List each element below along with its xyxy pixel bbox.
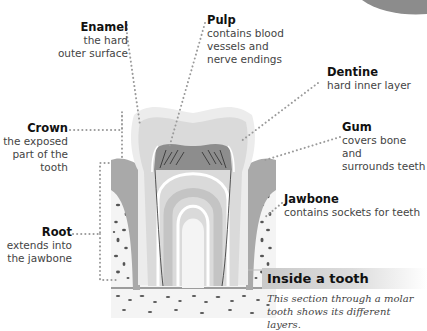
label-enamel-title: Enamel — [40, 20, 128, 34]
label-pulp: Pulp contains blood vessels and nerve en… — [207, 13, 317, 66]
label-enamel: Enamel the hard outer surface — [40, 20, 128, 60]
pulp-chamber — [154, 144, 232, 170]
label-jawbone-title: Jawbone — [284, 192, 427, 206]
label-gum-title: Gum — [342, 120, 427, 134]
gum-leader — [262, 137, 340, 161]
label-jawbone: Jawbone contains sockets for teeth — [284, 192, 427, 219]
label-crown-line-1: the exposed — [0, 135, 68, 148]
label-dentine-line-1: hard inner layer — [327, 79, 427, 92]
label-crown: Crown the exposed part of the tooth — [0, 121, 68, 174]
caption-title: Inside a tooth — [262, 268, 427, 289]
label-crown-line-3: tooth — [0, 161, 68, 174]
label-pulp-line-2: vessels and — [207, 40, 317, 53]
caption-text: This section through a molar tooth shows… — [262, 289, 427, 331]
enamel-leader — [127, 25, 140, 125]
label-dentine: Dentine hard inner layer — [327, 65, 427, 92]
label-pulp-line-1: contains blood — [207, 27, 317, 40]
label-jawbone-line-1: contains sockets for teeth — [284, 206, 427, 219]
decorative-shape — [362, 0, 427, 14]
label-pulp-line-3: nerve endings — [207, 53, 317, 66]
root-leader — [73, 163, 116, 280]
label-enamel-line-1: the hard — [40, 34, 128, 47]
label-gum-line-2: surrounds teeth — [342, 160, 427, 173]
label-crown-title: Crown — [0, 121, 68, 135]
label-enamel-line-2: outer surface — [40, 47, 128, 60]
caption-line-1: This section through a molar — [267, 292, 427, 305]
label-gum-line-1: covers bone and — [342, 134, 427, 160]
label-root-line-1: extends into — [0, 239, 72, 252]
caption-box: Inside a tooth This section through a mo… — [262, 268, 427, 331]
label-root-line-2: the jawbone — [0, 252, 72, 265]
label-root: Root extends into the jawbone — [0, 225, 72, 265]
label-gum: Gum covers bone and surrounds teeth — [342, 120, 427, 173]
tooth-illustration — [131, 107, 255, 288]
label-dentine-title: Dentine — [327, 65, 427, 79]
crown-leader — [70, 112, 122, 160]
caption-line-2: tooth shows its different layers. — [267, 305, 427, 331]
label-crown-line-2: part of the — [0, 148, 68, 161]
label-root-title: Root — [0, 225, 72, 239]
label-pulp-title: Pulp — [207, 13, 317, 27]
